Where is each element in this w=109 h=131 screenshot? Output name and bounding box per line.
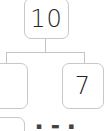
connector-left	[6, 52, 7, 63]
next-bond-partial-text: ▪ ▬ ▪	[36, 121, 77, 131]
whole-box: 10	[24, 0, 69, 39]
part-box-right: 7	[62, 63, 104, 109]
connector-stem	[45, 39, 46, 52]
part-box-left[interactable]	[0, 63, 28, 109]
part-value-right: 7	[75, 72, 91, 100]
connector-right	[84, 52, 85, 63]
connector-bar	[6, 52, 85, 53]
whole-value: 10	[30, 5, 63, 33]
next-bond-box	[0, 117, 25, 131]
